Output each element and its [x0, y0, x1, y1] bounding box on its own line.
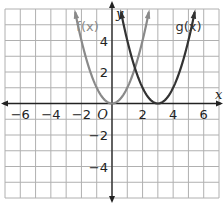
y-tick-label: −4	[89, 160, 108, 175]
x-tick-label: 4	[169, 107, 177, 122]
x-tick-label: −2	[72, 107, 91, 122]
curve-arrow-icon	[191, 9, 196, 19]
y-tick-label: 4	[100, 34, 108, 49]
x-tick-label: 6	[200, 107, 208, 122]
x-axis-label: x	[215, 87, 223, 102]
coordinate-plane: f(x)g(x) −6−4−224642−2−4Oxy	[0, 0, 224, 205]
curve-arrow-icon	[145, 9, 150, 19]
function-label: g(x)	[175, 19, 201, 34]
y-tick-label: 2	[100, 65, 108, 80]
y-axis-label: y	[115, 6, 124, 21]
x-tick-label: −4	[41, 107, 60, 122]
x-tick-label: −6	[11, 107, 30, 122]
origin-label: O	[97, 107, 108, 122]
y-axis-up-arrow-icon	[109, 1, 115, 8]
function-label: f(x)	[76, 19, 98, 34]
y-tick-label: −2	[89, 128, 108, 143]
curve-arrow-icon	[74, 9, 79, 19]
y-axis-down-arrow-icon	[109, 196, 115, 203]
x-tick-label: 2	[138, 107, 146, 122]
